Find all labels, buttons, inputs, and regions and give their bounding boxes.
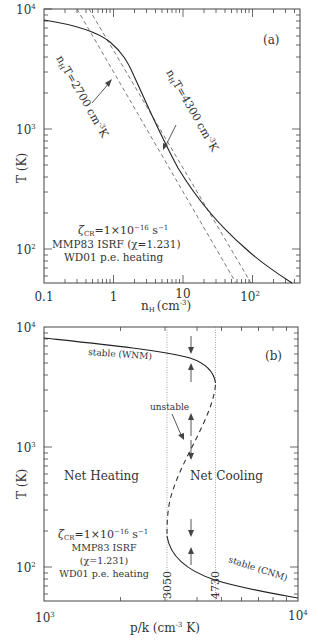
panel-a-xtick-1: 1 <box>110 290 118 304</box>
arrows-cnm <box>188 519 194 565</box>
net-heating-label: Net Heating <box>64 469 139 483</box>
panel-b-label: (b) <box>265 349 282 363</box>
panel-a-xlabel: nH(cm-3) <box>141 299 191 314</box>
stable-cnm-label: stable (CNM) <box>227 554 289 582</box>
stable-cnm-curve <box>167 536 298 598</box>
panel-b-xlabel: p/k (cm-3 K) <box>130 621 200 635</box>
panel-b-xtick-1e3: 103 <box>35 611 55 625</box>
panel-a-isrf: MMP83 ISRF (χ=1.231) <box>52 238 181 250</box>
stable-wnm-curve <box>44 338 216 383</box>
panel-b: stable (WNM) unstable stable (CNM) Net H… <box>15 321 308 635</box>
panel-a: nHT=2700 cm-3K nHT=4300 cm-3K (a) ζCR=1×… <box>15 3 300 314</box>
panel-a-zeta-cr: ζCR=1×10−16 s−1 <box>78 224 168 238</box>
unstable-label: unstable <box>150 402 189 412</box>
figure: nHT=2700 cm-3K nHT=4300 cm-3K (a) ζCR=1×… <box>0 0 318 642</box>
panel-a-ylabel: T (K) <box>15 153 29 183</box>
panel-a-ytick-1e4: 104 <box>16 3 36 17</box>
net-cooling-label: Net Cooling <box>190 469 263 483</box>
pmin-3050-label: 3050 <box>161 571 174 599</box>
panel-b-ylabel: T (K) <box>15 469 29 499</box>
panel-b-chi: (χ=1.231) <box>80 555 128 566</box>
panel-b-xtick-1e4: 104 <box>288 609 308 623</box>
panel-b-pe-heating: WD01 p.e. heating <box>59 568 149 579</box>
panel-b-ytick-1e4: 104 <box>16 321 36 335</box>
panel-a-xtick-0.1: 0.1 <box>34 290 53 304</box>
isobar-2700-label: nHT=2700 cm-3K <box>53 53 112 141</box>
panel-a-xtick-100: 102 <box>240 290 260 304</box>
panel-b-ytick-1e3: 103 <box>16 441 36 455</box>
panel-a-ytick-1e3: 103 <box>16 123 36 137</box>
pmax-4730-label: 4730 <box>209 571 222 599</box>
panel-b-ytick-1e2: 102 <box>16 561 36 575</box>
unstable-pointer-arrow <box>172 414 184 440</box>
panel-a-ytick-1e2: 102 <box>16 243 36 257</box>
panel-a-label: (a) <box>263 33 280 47</box>
panel-a-pe-heating: WD01 p.e. heating <box>64 251 163 263</box>
panel-b-zeta-cr: ζCR=1×10−16 s−1 <box>58 528 148 542</box>
panel-b-isrf: MMP83 ISRF <box>72 542 137 553</box>
isobar-4300-label: nHT=4300 cm-3K <box>163 67 222 155</box>
panel-b-x-ticks <box>121 327 287 601</box>
arrow-2700 <box>92 79 112 103</box>
